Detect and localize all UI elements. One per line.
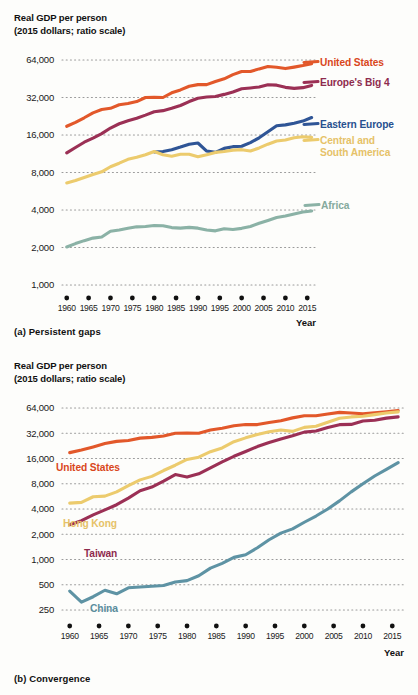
- x-axis-tick-label: 2010: [276, 303, 294, 313]
- y-axis-tick-label: 32,000: [26, 428, 54, 439]
- x-axis-tick-label: 1975: [149, 631, 167, 641]
- series-label-taiwan: Taiwan: [84, 548, 117, 559]
- y-axis-tick-label: 16,000: [26, 129, 54, 140]
- x-axis-tick-label: 1960: [61, 631, 79, 641]
- y-axis-tick-label: 2,000: [31, 529, 54, 540]
- x-axis-tick-dot: [108, 296, 113, 301]
- x-axis-tick-dot: [331, 624, 336, 629]
- y-axis-tick-label: 1,000: [31, 554, 54, 565]
- x-axis-tick-label: 1970: [102, 303, 120, 313]
- series-label-eastern-europe: Eastern Europe: [320, 119, 394, 130]
- chart-svg-persistent-gaps: 1,0002,0004,0008,00016,00032,00064,000Un…: [0, 38, 418, 328]
- x-axis-tick-label: 2000: [295, 631, 313, 641]
- series-label-central-and-south-america: Central and: [320, 135, 375, 146]
- x-axis-tick-dot: [214, 624, 219, 629]
- y-axis-tick-label: 8,000: [31, 167, 54, 178]
- x-axis-tick-dot: [86, 296, 91, 301]
- x-axis-tick-label: 2000: [233, 303, 251, 313]
- x-axis-tick-label: 1995: [266, 631, 284, 641]
- y-axis-tick-label: 4,000: [31, 503, 54, 514]
- x-axis-tick-label: 1990: [237, 631, 255, 641]
- x-axis-tick-dot: [130, 296, 135, 301]
- y-axis-title-line1-b: Real GDP per person: [14, 360, 107, 371]
- y-axis-tick-label: 2,000: [31, 242, 54, 253]
- x-axis-tick-dot: [185, 624, 190, 629]
- series-label-europe-s-big-4: Europe's Big 4: [320, 77, 390, 88]
- legend-swatch-line: [304, 82, 318, 83]
- series-label-united-states: United States: [56, 462, 120, 473]
- series-label-central-and-south-america: South America: [320, 147, 391, 158]
- y-axis-title-b: Real GDP per person(2015 dollars; ratio …: [14, 360, 125, 385]
- legend-swatch-line: [304, 62, 318, 63]
- x-axis-tick-dot: [302, 624, 307, 629]
- y-axis-tick-label: 64,000: [26, 54, 54, 65]
- x-axis-tick-dot: [126, 624, 131, 629]
- series-label-africa: Africa: [321, 200, 350, 211]
- x-axis-tick-label: 1990: [189, 303, 207, 313]
- data-series-line: [154, 118, 311, 153]
- series-label-china: China: [90, 603, 118, 614]
- x-axis-tick-dot: [152, 296, 157, 301]
- y-axis-title-line2-a: (2015 dollars; ratio scale): [14, 25, 125, 36]
- legend-swatch-line: [304, 124, 318, 125]
- x-axis-tick-label: 1970: [119, 631, 137, 641]
- y-axis-tick-label: 64,000: [26, 402, 54, 413]
- x-axis-tick-label: 1985: [167, 303, 185, 313]
- x-axis-tick-dot: [273, 624, 278, 629]
- x-axis-tick-dot: [361, 624, 366, 629]
- x-axis-tick-label: 1985: [207, 631, 225, 641]
- x-axis-tick-label: 2010: [354, 631, 372, 641]
- x-axis-tick-dot: [97, 624, 102, 629]
- y-axis-tick-label: 500: [39, 579, 54, 590]
- x-axis-tick-label: 1995: [211, 303, 229, 313]
- x-axis-tick-label: 2015: [383, 631, 401, 641]
- chart-svg-convergence: 2505001,0002,0004,0008,00016,00032,00064…: [0, 386, 418, 676]
- x-axis-tick-dot: [283, 296, 288, 301]
- x-axis-tick-dot: [239, 296, 244, 301]
- x-axis-tick-label: 1980: [178, 631, 196, 641]
- x-axis-tick-label: 1960: [58, 303, 76, 313]
- x-axis-tick-label: 1975: [123, 303, 141, 313]
- y-axis-title-a: Real GDP per person(2015 dollars; ratio …: [14, 12, 125, 37]
- data-series-line: [67, 211, 312, 247]
- data-series-line: [67, 64, 312, 127]
- x-axis-tick-label: 1965: [80, 303, 98, 313]
- y-axis-tick-label: 16,000: [26, 453, 54, 464]
- y-axis-tick-label: 8,000: [31, 478, 54, 489]
- figure-caption-a: (a) Persistent gaps: [14, 326, 101, 337]
- x-axis-label: Year: [296, 317, 316, 328]
- figure-caption-b: (b) Convergence: [14, 673, 90, 684]
- x-axis-tick-dot: [261, 296, 266, 301]
- x-axis-tick-dot: [174, 296, 179, 301]
- y-axis-title-line2-b: (2015 dollars; ratio scale): [14, 373, 125, 384]
- x-axis-tick-dot: [217, 296, 222, 301]
- x-axis-tick-dot: [64, 296, 69, 301]
- series-label-united-states: United States: [320, 57, 384, 68]
- series-label-hong-kong: Hong Kong: [63, 518, 117, 529]
- x-axis-label: Year: [384, 647, 404, 658]
- y-axis-tick-label: 32,000: [26, 92, 54, 103]
- x-axis-tick-dot: [155, 624, 160, 629]
- legend-swatch-line: [304, 140, 318, 141]
- x-axis-tick-label: 1980: [145, 303, 163, 313]
- x-axis-tick-dot: [305, 296, 310, 301]
- x-axis-tick-dot: [390, 624, 395, 629]
- chart-panel-persistent-gaps: Real GDP per person(2015 dollars; ratio …: [0, 0, 418, 348]
- x-axis-tick-label: 1965: [90, 631, 108, 641]
- y-axis-tick-label: 4,000: [31, 204, 54, 215]
- y-axis-tick-label: 250: [39, 604, 54, 615]
- x-axis-tick-dot: [67, 624, 72, 629]
- y-axis-title-line1-a: Real GDP per person: [14, 12, 107, 23]
- x-axis-tick-dot: [196, 296, 201, 301]
- x-axis-tick-label: 2015: [298, 303, 316, 313]
- legend-swatch-line: [305, 205, 319, 206]
- x-axis-tick-dot: [243, 624, 248, 629]
- chart-panel-convergence: Real GDP per person(2015 dollars; ratio …: [0, 348, 418, 695]
- x-axis-tick-label: 2005: [255, 303, 273, 313]
- x-axis-tick-label: 2005: [325, 631, 343, 641]
- y-axis-tick-label: 1,000: [31, 279, 54, 290]
